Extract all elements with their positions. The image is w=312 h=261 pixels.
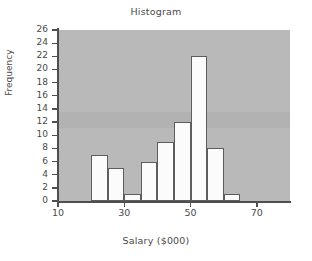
y-axis-tick-label: 24 (26, 38, 48, 47)
y-axis-tick-label: 12 (26, 117, 48, 126)
y-axis-tick (52, 121, 58, 122)
x-axis-tick-label: 50 (176, 208, 206, 218)
x-axis-tick-label: 30 (109, 208, 139, 218)
y-axis-tick-label: 26 (26, 25, 48, 34)
y-axis-tick (52, 135, 58, 136)
y-axis-tick (52, 108, 58, 109)
y-axis-tick-label: 16 (26, 91, 48, 100)
y-axis-tick (52, 161, 58, 162)
y-axis-tick-label: 10 (26, 130, 48, 139)
y-axis-label: Frequency (4, 82, 14, 96)
histogram-bar (157, 142, 174, 201)
histogram-figure: Histogram Frequency 02468101214161820222… (0, 0, 312, 261)
y-axis-tick-label: 18 (26, 78, 48, 87)
x-axis-tick-label: 70 (242, 208, 272, 218)
y-axis-tick (52, 148, 58, 149)
y-axis-tick (52, 69, 58, 70)
y-axis-tick-label: 20 (26, 64, 48, 73)
y-axis-tick (52, 29, 58, 30)
y-axis-tick-label: 0 (26, 196, 48, 205)
y-axis-tick (52, 43, 58, 44)
histogram-bar (108, 168, 125, 201)
y-axis-line (57, 28, 59, 203)
histogram-bar (174, 122, 191, 201)
y-axis-tick (52, 187, 58, 188)
y-axis-tick-label: 4 (26, 170, 48, 179)
histogram-bar (191, 56, 208, 201)
y-axis-tick-label: 2 (26, 183, 48, 192)
histogram-bar (224, 194, 241, 201)
histogram-bar (91, 155, 108, 201)
y-axis-tick (52, 95, 58, 96)
histogram-bar (124, 194, 141, 201)
y-axis-tick-label: 8 (26, 143, 48, 152)
y-axis-tick-label: 14 (26, 104, 48, 113)
x-axis-tick-label: 10 (43, 208, 73, 218)
y-axis-tick-label: 22 (26, 51, 48, 60)
x-axis-label: Salary ($000) (0, 235, 312, 246)
y-axis-tick (52, 56, 58, 57)
y-axis-tick (52, 174, 58, 175)
y-axis-tick-label: 6 (26, 157, 48, 166)
histogram-bar (141, 162, 158, 201)
histogram-bar (207, 148, 224, 201)
chart-title: Histogram (0, 6, 312, 17)
y-axis-tick (52, 82, 58, 83)
